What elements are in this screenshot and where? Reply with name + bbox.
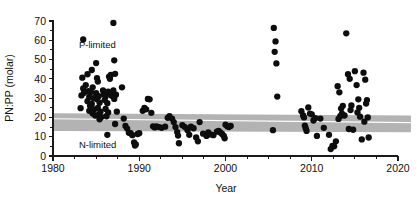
data-point [114,108,120,114]
data-point [362,76,368,82]
data-point [121,115,127,121]
y-tick-label: 70 [34,15,46,27]
data-point [366,134,372,140]
data-point [96,116,102,122]
y-axis-tick-labels: 010203040506070 [34,15,46,162]
data-point [272,38,278,44]
data-point [352,68,358,74]
data-points [77,20,371,152]
data-point [111,96,117,102]
data-point [359,136,365,142]
data-point [221,135,227,141]
data-point [162,124,168,130]
y-tick-label: 10 [34,130,46,142]
data-point [340,103,346,109]
data-point [104,100,110,106]
data-point [317,115,323,121]
y-tick-label: 60 [34,34,46,46]
data-point [111,57,117,63]
data-point [112,121,118,127]
data-point [336,89,342,95]
x-axis-ticks [53,156,398,161]
y-tick-label: 40 [34,73,46,85]
data-point [360,70,366,76]
data-point [270,127,276,133]
data-point [303,128,309,134]
data-point [271,25,277,31]
data-point [176,140,182,146]
data-point [347,76,353,82]
data-point [326,132,332,138]
n-limited-label: N-limited [79,139,116,150]
data-point [333,138,339,144]
y-tick-label: 50 [34,53,46,65]
data-point [89,67,95,73]
data-point [321,125,327,131]
data-point [335,116,341,122]
data-point [148,110,154,116]
data-point [103,113,109,119]
data-point [78,92,84,98]
data-point [301,114,307,120]
x-axis-title: Year [215,182,237,194]
data-point [133,141,139,147]
data-point [88,89,94,95]
data-point [361,119,367,125]
data-point [146,96,152,102]
data-point [363,100,369,106]
data-point [190,125,196,131]
data-point [136,130,142,136]
y-axis-title: PN:PP (molar) [3,54,15,122]
data-point [119,84,125,90]
data-point [228,123,234,129]
chart-canvas: 19801990200020102020 010203040506070 P-l… [0,0,417,197]
data-point [195,138,201,144]
data-point [355,96,361,102]
x-tick-label: 1990 [128,162,152,174]
data-point [341,112,347,118]
data-point [314,133,320,139]
data-point [77,105,83,111]
data-point [143,106,149,112]
data-point [95,78,101,84]
x-axis-tick-labels: 19801990200020102020 [41,162,410,174]
data-point [357,114,363,120]
data-point [112,71,118,77]
y-axis-ticks [49,21,54,156]
data-point [93,60,99,66]
data-point [79,75,85,81]
p-limited-label: P-limited [79,39,116,50]
data-point [272,49,278,55]
x-tick-label: 2010 [300,162,324,174]
x-tick-label: 2020 [386,162,410,174]
data-point [353,82,359,88]
data-point [350,127,356,133]
data-point [104,132,110,138]
data-point [305,104,311,110]
data-point [175,132,181,138]
data-point [186,132,192,138]
data-point [334,83,340,89]
data-point [110,20,116,26]
data-point [273,60,279,66]
data-point [347,107,353,113]
data-point [343,30,349,36]
y-tick-label: 20 [34,111,46,123]
data-point [196,119,202,125]
data-point [83,82,89,88]
y-tick-label: 0 [40,150,46,162]
x-tick-label: 1980 [41,162,65,174]
scatter-chart-figure: 19801990200020102020 010203040506070 P-l… [0,0,417,197]
y-tick-label: 30 [34,92,46,104]
data-point [89,101,95,107]
data-point [274,93,280,99]
x-tick-label: 2000 [214,162,238,174]
